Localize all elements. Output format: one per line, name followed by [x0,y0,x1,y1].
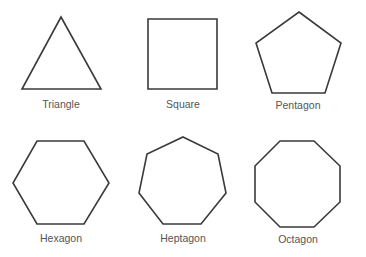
octagon-label: Octagon [278,233,318,245]
pentagon-shape [256,12,341,93]
octagon-shape [255,141,340,227]
heptagon-label: Heptagon [160,232,206,244]
hexagon-label: Hexagon [40,232,82,244]
square-label: Square [166,98,200,110]
polygon-diagram: Triangle Square Pentagon Hexagon Heptago… [0,0,366,257]
heptagon-shape [139,137,226,224]
hexagon-shape [13,141,109,224]
triangle-label: Triangle [42,98,80,110]
triangle-shape [22,17,101,89]
pentagon-label: Pentagon [276,99,321,111]
square-shape [148,19,217,89]
shapes-canvas [0,0,366,257]
